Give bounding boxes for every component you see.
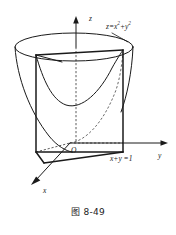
figure-drawing (0, 0, 176, 235)
cutting-plane-top-chord (36, 50, 123, 55)
z-axis-label: z (89, 15, 92, 23)
figure-caption: 图 8-49 (0, 205, 176, 218)
y-axis-arrow-icon (161, 140, 169, 145)
paraboloid-left-silhouette (15, 47, 72, 152)
base-left-corner-edge (36, 152, 44, 163)
figure-container: z y x O z=x2+y2 x+y =1 图 8-49 (0, 0, 176, 235)
back-parabola-dashed (70, 52, 123, 143)
x-axis-line (36, 143, 70, 180)
y-axis-label: y (158, 152, 161, 160)
surface-equation-label: z=x2+y2 (106, 21, 131, 30)
paraboloid-top-rim-ellipse (15, 33, 133, 61)
origin-label: O (71, 147, 76, 155)
x-axis-arrow-icon (31, 176, 40, 185)
surface-equation-exponent-2: 2 (128, 20, 131, 26)
base-hidden-left-edge (36, 143, 70, 152)
surface-label-leader-line (112, 33, 128, 42)
surface-equation-part-1: z=x (106, 22, 117, 31)
z-axis-arrow-icon (73, 16, 79, 24)
x-axis-label: x (43, 187, 46, 195)
plane-equation-label: x+y =1 (110, 155, 132, 163)
